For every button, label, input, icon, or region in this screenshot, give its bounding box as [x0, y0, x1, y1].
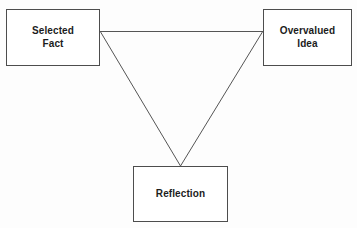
- node-reflection-label: Reflection: [156, 188, 205, 201]
- node-selected-fact[interactable]: Selected Fact: [6, 9, 100, 66]
- node-reflection[interactable]: Reflection: [133, 166, 228, 222]
- edge-overvalued-idea-to-reflection: [181, 31, 264, 166]
- edge-selected-fact-to-reflection: [100, 31, 181, 166]
- node-selected-fact-label: Selected Fact: [32, 25, 74, 51]
- node-overvalued-idea[interactable]: Overvalued Idea: [263, 9, 352, 66]
- node-overvalued-idea-label: Overvalued Idea: [280, 25, 335, 51]
- diagram-canvas: Selected Fact Overvalued Idea Reflection: [0, 0, 357, 228]
